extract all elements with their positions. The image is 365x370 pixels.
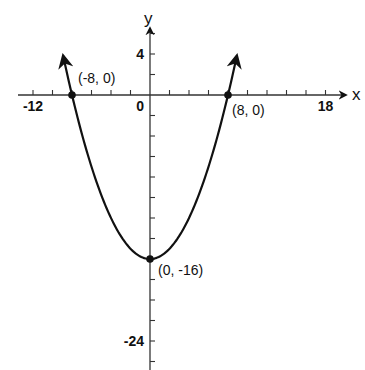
y-tick-label: -24 xyxy=(124,333,144,349)
parabola-chart: x y -120184-24 (-8, 0)(8, 0)(0, -16) xyxy=(0,0,365,370)
point-marker xyxy=(224,91,232,99)
labeled-points: (-8, 0)(8, 0)(0, -16) xyxy=(68,70,264,278)
y-tick-label: 4 xyxy=(136,46,144,62)
x-tick-label: -12 xyxy=(23,98,43,114)
point-marker xyxy=(146,255,154,263)
point-marker xyxy=(68,91,76,99)
x-axis-label: x xyxy=(352,85,361,104)
y-axis-label: y xyxy=(144,9,153,28)
axis-ticks xyxy=(33,34,326,362)
x-tick-label: 18 xyxy=(318,98,334,114)
point-label: (-8, 0) xyxy=(78,70,115,86)
point-label: (0, -16) xyxy=(158,262,203,278)
point-label: (8, 0) xyxy=(232,102,265,118)
x-tick-label: 0 xyxy=(136,98,144,114)
